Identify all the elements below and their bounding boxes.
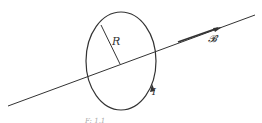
current-loop <box>86 12 156 110</box>
field-label: 𝓑 <box>208 33 217 45</box>
current-label: I <box>152 86 156 97</box>
current-loop-diagram <box>0 0 262 123</box>
radius-label: R <box>112 35 120 48</box>
field-arrow-head-icon <box>213 27 222 32</box>
caption-fragment: F: 1.1 <box>85 117 105 123</box>
